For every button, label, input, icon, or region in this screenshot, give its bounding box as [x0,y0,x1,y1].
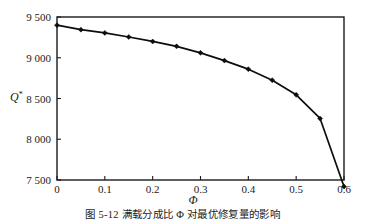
x-tick-label: 0.4 [241,183,255,195]
y-tick-label: 9 500 [26,11,51,23]
data-point [222,58,227,63]
chart-plot: 00.10.20.30.40.50.6 9 5009 0008 5008 000… [0,0,365,205]
figure-container: 00.10.20.30.40.50.6 9 5009 0008 5008 000… [0,0,365,221]
x-axis-label: Φ [188,193,197,205]
data-point [78,27,83,32]
x-tick-label: 0.2 [146,183,160,195]
y-tick-label: 8 500 [26,93,51,105]
x-axis-tick-labels: 00.10.20.30.40.50.6 [54,183,351,195]
y-tick-label: 9 000 [26,52,51,64]
x-tick-label: 0.5 [289,183,303,195]
y-tick-label: 7 500 [26,174,51,186]
x-tick-label: 0.1 [98,183,112,195]
data-point [198,50,203,55]
y-axis-tick-labels: 9 5009 0008 5008 0007 500 [26,11,51,186]
data-point [102,30,107,35]
data-point [55,23,60,28]
data-series-markers [55,23,347,189]
data-series-line [57,25,344,186]
figure-caption: 图 5-12 满载分成比 Φ 对最优修复量的影响 [0,208,365,221]
y-axis-label: Q* [10,90,23,104]
data-point [174,44,179,49]
x-tick-label: 0 [54,183,60,195]
data-point [150,39,155,44]
data-point [126,34,131,39]
data-point [246,67,251,72]
y-tick-label: 8 000 [26,133,51,145]
